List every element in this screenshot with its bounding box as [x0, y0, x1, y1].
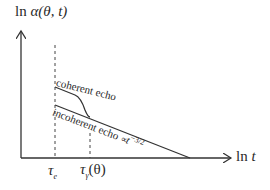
- y-axis-label-symbol: α(θ, t): [30, 3, 67, 19]
- x-axis-label-symbol: t: [251, 148, 255, 164]
- x-axis-label: ln t: [236, 148, 256, 165]
- tick-tau-gamma-suffix: (θ): [89, 161, 106, 177]
- tick-tau-e: τe: [48, 162, 57, 181]
- y-axis-label-prefix: ln: [15, 3, 30, 19]
- diagram-canvas: [0, 0, 270, 190]
- tick-tau-gamma: τγ(θ): [80, 161, 106, 180]
- x-axis-label-prefix: ln: [236, 148, 251, 164]
- tick-tau-e-subscript: e: [53, 172, 57, 181]
- y-axis-label: ln α(θ, t): [15, 3, 67, 20]
